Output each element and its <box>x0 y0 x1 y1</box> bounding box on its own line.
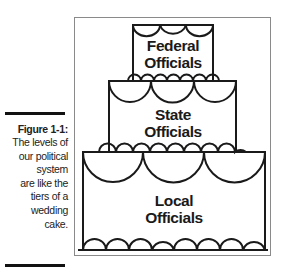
top-tier-label-line2: Officials <box>144 54 202 71</box>
scallop-border-icon <box>99 144 246 153</box>
swag-icon <box>151 81 194 102</box>
wedding-cake-diagram: Federal Officials State Officials Local … <box>0 0 289 271</box>
middle-tier-label-line2: Officials <box>144 123 202 140</box>
swag-icon <box>83 152 143 182</box>
bottom-tier-label-line1: Local <box>155 192 194 209</box>
middle-tier-label-line1: State <box>155 106 192 123</box>
scallop-border-icon <box>83 239 265 250</box>
top-tier-label-line1: Federal <box>147 37 199 54</box>
swag-icon <box>143 152 204 183</box>
swag-icon <box>194 81 236 102</box>
swag-icon <box>160 25 186 34</box>
swag-icon <box>109 81 151 102</box>
bottom-tier-label-line2: Officials <box>145 209 203 226</box>
swag-icon <box>186 25 213 36</box>
swag-icon <box>204 152 265 183</box>
swag-icon <box>133 25 160 36</box>
